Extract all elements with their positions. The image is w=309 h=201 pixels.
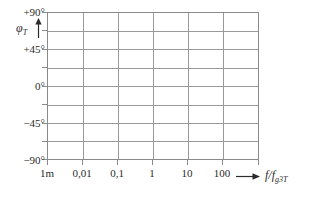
x-tick-mark [117, 160, 118, 165]
gridline-vertical [188, 13, 189, 159]
x-tick-label-0-01: 0,01 [62, 167, 102, 179]
y-tick-mark [42, 104, 47, 105]
x-tick-label-10: 10 [167, 167, 207, 179]
y-axis-symbol: φ [16, 21, 23, 35]
right-arrow-icon [236, 172, 260, 181]
gridline-vertical [153, 13, 154, 159]
plot-area [47, 12, 259, 160]
y-tick-mark [42, 67, 47, 68]
y-tick-label-minus-90: −90° [23, 155, 45, 166]
x-tick-label-1m: 1m [27, 167, 67, 179]
y-axis-subscript: T [23, 28, 27, 37]
y-tick-label-plus-90: +90° [23, 7, 45, 18]
x-tick-mark [187, 160, 188, 165]
y-axis-title: φT [16, 21, 27, 37]
x-tick-mark [222, 160, 223, 165]
x-tick-mark [47, 160, 48, 165]
x-axis-subscript: g3T [275, 175, 287, 184]
gridline-vertical [118, 13, 119, 159]
y-tick-label-plus-45: +45° [23, 44, 45, 55]
phase-response-chart: 1m 0,01 0,1 1 10 100 +90° +45° 0° −45° −… [0, 0, 309, 201]
x-tick-mark [258, 160, 259, 165]
y-tick-mark [42, 141, 47, 142]
x-tick-label-0-1: 0,1 [97, 167, 137, 179]
x-tick-label-1: 1 [132, 167, 172, 179]
gridline-vertical [83, 13, 84, 159]
y-tick-label-minus-45: −45° [23, 118, 45, 129]
x-axis-title: f/fg3T [265, 168, 287, 184]
y-tick-label-zero: 0° [35, 81, 45, 92]
x-tick-mark [152, 160, 153, 165]
gridline-vertical [223, 13, 224, 159]
x-tick-mark [82, 160, 83, 165]
up-arrow-icon [34, 18, 43, 38]
